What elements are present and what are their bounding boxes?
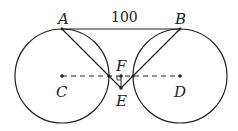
point-b [179,28,182,31]
point-c [60,74,64,78]
label-ab-length: 100 [111,9,138,25]
label-c: C [56,83,68,101]
path-b-e [121,29,180,88]
label-b: B [174,10,186,28]
label-e: E [115,92,127,110]
point-e [119,86,123,90]
label-a: A [56,10,69,28]
label-f: F [115,57,127,75]
geometry-diagram: A B 100 C D F E [0,0,238,131]
point-a [61,28,64,31]
point-t2 [131,74,134,77]
label-d: D [173,83,186,101]
path-a-e [62,29,121,88]
point-t1 [107,74,110,77]
point-d [178,74,182,78]
